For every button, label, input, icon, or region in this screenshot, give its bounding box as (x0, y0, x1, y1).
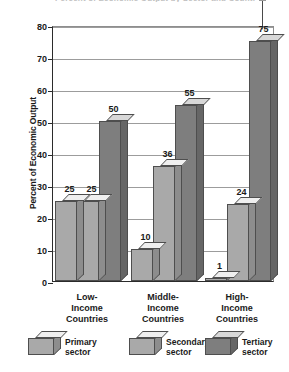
y-tick-label: 0 (42, 278, 47, 288)
legend-swatch-face (129, 338, 155, 355)
legend-swatch-face (28, 338, 54, 355)
x-axis-category-label: High-IncomeCountries (194, 292, 280, 325)
y-tick-mark (48, 219, 53, 220)
bar-side (249, 197, 256, 281)
y-tick-mark (48, 123, 53, 124)
y-tick-mark (48, 187, 53, 188)
bar-value-label: 55 (175, 88, 205, 98)
category-label-line: Countries (44, 314, 130, 325)
y-tick-mark (48, 91, 53, 92)
gridline (53, 59, 273, 60)
y-tick-label: 30 (37, 182, 47, 192)
category-label-line: Income (44, 303, 130, 314)
bar-value-label: 75 (249, 24, 279, 34)
y-tick-label: 20 (37, 214, 47, 224)
gridline (53, 27, 273, 28)
bar-side (197, 98, 204, 281)
bar (131, 249, 153, 281)
legend-swatch-icon (28, 338, 54, 355)
legend-label: Primary sector (65, 337, 97, 357)
category-label-line: High- (194, 292, 280, 303)
y-tick-mark (48, 59, 53, 60)
bar-face (131, 249, 153, 281)
bar-side (175, 159, 182, 281)
bar-face (55, 201, 77, 281)
y-tick-label: 10 (37, 246, 47, 256)
legend-swatch-face (205, 338, 231, 355)
bar-value-label: 1 (205, 261, 235, 271)
y-tick-label: 80 (37, 22, 47, 32)
bar-top (106, 114, 135, 121)
y-tick-label: 50 (37, 118, 47, 128)
gridline (53, 123, 273, 124)
gridline (53, 91, 273, 92)
bar-side (121, 114, 128, 281)
x-axis-category-label: Low-IncomeCountries (44, 292, 130, 325)
category-label-line: Countries (194, 314, 280, 325)
economic-output-bar-chart: Percent of Economic Output by Sector and… (0, 0, 289, 372)
y-tick-mark (48, 155, 53, 156)
y-tick-label: 40 (37, 150, 47, 160)
bar-value-label: 36 (153, 149, 183, 159)
plot-area: 8070605040302010025255010365512475 (52, 26, 274, 282)
bar (205, 278, 227, 281)
bar-value-label: 25 (77, 184, 107, 194)
y-tick-label: 60 (37, 86, 47, 96)
bar-top (256, 34, 285, 41)
legend-swatch-top (212, 331, 245, 338)
legend-label: Secondary sector (166, 337, 209, 357)
chart-legend: Primary sectorSecondary sectorTertiary s… (0, 332, 289, 372)
chart-title-cropped: Percent of Economic Output by Sector and… (55, 0, 255, 2)
bar-side (77, 194, 84, 281)
bar (55, 201, 77, 281)
y-tick-mark (48, 251, 53, 252)
y-tick-mark (48, 27, 53, 28)
category-label-line: Low- (44, 292, 130, 303)
legend-swatch-top (136, 331, 169, 338)
legend-label: Tertiary sector (242, 337, 273, 357)
y-tick-label: 70 (37, 54, 47, 64)
bar-value-label: 24 (227, 187, 257, 197)
category-label-line: Income (194, 303, 280, 314)
bar-side (271, 34, 278, 281)
legend-swatch-top (35, 331, 68, 338)
legend-swatch-icon (129, 338, 155, 355)
bar-side (99, 194, 106, 281)
bar-value-label: 50 (99, 104, 129, 114)
bar-top (182, 98, 211, 105)
bar-value-label: 10 (131, 232, 161, 242)
legend-swatch-icon (205, 338, 231, 355)
y-tick-mark (48, 283, 53, 284)
bar-face (205, 278, 227, 281)
